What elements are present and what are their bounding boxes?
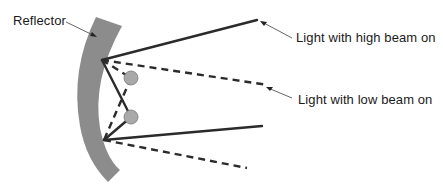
high-beam-leader [262, 22, 292, 38]
low-beam-leader [268, 88, 292, 98]
lower-bulb [124, 110, 138, 124]
high-beam-arrowhead-icon [260, 21, 267, 26]
low-beam-arrowhead-icon [266, 87, 273, 91]
reflector-label: Reflector [13, 13, 66, 28]
high-beam-label: Light with high beam on [296, 30, 436, 45]
reflector-shape [77, 17, 122, 182]
low-beam-label: Light with low beam on [298, 92, 432, 107]
upper-bulb [124, 71, 138, 85]
